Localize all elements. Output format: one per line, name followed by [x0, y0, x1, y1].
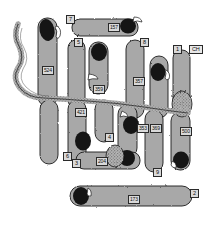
group-label-9: 9 — [153, 168, 162, 177]
measurement-label-421: 421 — [75, 108, 87, 117]
measurement-label-204: 204 — [96, 157, 108, 166]
group-label-5: 5 — [74, 38, 83, 47]
group-label-6: 6 — [63, 152, 72, 161]
measurement-label-500: 500 — [180, 127, 192, 136]
group-label-1: 1 — [173, 45, 182, 54]
measurement-label-357: 357 — [133, 77, 145, 86]
group-label-4: 4 — [105, 133, 114, 142]
group-label-2: 2 — [190, 189, 199, 198]
group-label-8: 8 — [140, 38, 149, 47]
group-label-7: 7 — [66, 15, 75, 24]
measurement-label-369: 369 — [150, 124, 162, 133]
measurement-label-173: 173 — [128, 195, 140, 204]
group-label-3: 3 — [72, 159, 81, 168]
group-label-ch: CH — [189, 45, 203, 54]
measurement-label-359: 359 — [93, 85, 105, 94]
measurement-label-157: 157 — [108, 23, 120, 32]
idiogram-canvas — [0, 0, 220, 225]
chromosome-idiogram-figure: 7581CH4639252415735935742135336950020417… — [0, 0, 220, 225]
measurement-label-353: 353 — [137, 124, 149, 133]
measurement-label-524: 524 — [42, 66, 54, 75]
